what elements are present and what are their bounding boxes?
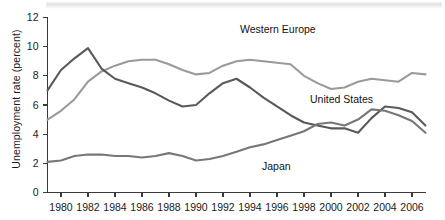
y-axis-tick-label: 12 [15, 12, 39, 23]
y-axis-tick-label: 0 [15, 187, 39, 198]
plot-area [0, 0, 445, 220]
series-label-western-europe: Western Europe [240, 24, 316, 35]
series-line-japan [48, 109, 426, 162]
axes [43, 18, 426, 198]
y-axis-tick-label: 8 [15, 70, 39, 81]
y-axis-tick-label: 10 [15, 41, 39, 52]
data-series-group [48, 48, 426, 162]
y-axis-tick-label: 4 [15, 129, 39, 140]
x-axis-tick-label: 2006 [392, 202, 432, 213]
series-label-united-states: United States [310, 94, 373, 105]
y-axis-tick-label: 6 [15, 100, 39, 111]
unemployment-rate-line-chart: Unemployment rate (percent) 024681012 19… [0, 0, 445, 220]
y-axis-tick-label: 2 [15, 158, 39, 169]
series-label-japan: Japan [262, 161, 291, 172]
